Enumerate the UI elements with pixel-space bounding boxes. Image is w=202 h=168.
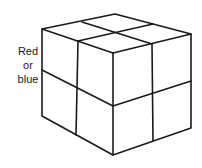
top-mid-line-b — [82, 22, 152, 44]
color-label-line-1: Red — [13, 44, 43, 58]
color-label-line-2: or — [13, 58, 43, 72]
cube-outline — [42, 14, 191, 155]
color-label-line-3: blue — [13, 72, 43, 86]
